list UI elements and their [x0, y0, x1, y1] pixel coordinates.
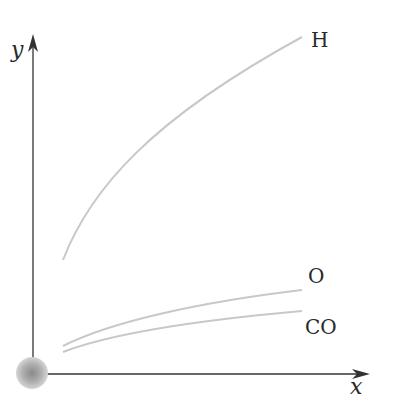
curve-label-h: H: [311, 28, 328, 52]
x-axis-label: x: [350, 374, 363, 399]
curve-label-o: O: [308, 264, 324, 288]
y-axis-label: y: [10, 37, 24, 62]
curve-o: [63, 290, 302, 346]
curve-h: [63, 37, 302, 260]
diagram: y x H O CO: [0, 0, 393, 418]
curve-label-co: CO: [305, 315, 337, 339]
origin-sphere: [16, 357, 48, 389]
